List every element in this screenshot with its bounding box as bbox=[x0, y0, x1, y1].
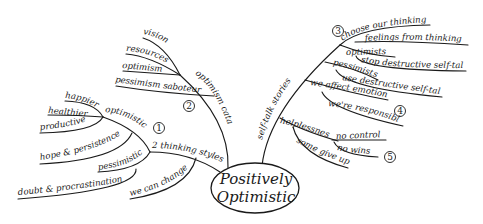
mind-map: vision resources optimism pessimism sabo… bbox=[0, 0, 483, 224]
number-badge-4: 4 bbox=[395, 106, 406, 117]
svg-text:3: 3 bbox=[335, 26, 341, 36]
svg-text:2: 2 bbox=[186, 101, 192, 111]
label-vision: vision bbox=[143, 26, 171, 45]
label-no-control: no control bbox=[336, 129, 381, 141]
svg-text:4: 4 bbox=[397, 106, 403, 116]
number-badge-5: 5 bbox=[385, 152, 396, 163]
number-badge-1: 1 bbox=[154, 123, 165, 134]
central-node: Positively Optimistic bbox=[211, 163, 299, 213]
center-title-line1: Positively bbox=[219, 170, 293, 188]
number-badge-2: 2 bbox=[184, 101, 195, 112]
label-pessimistic: pessimistic bbox=[97, 147, 144, 172]
svg-text:5: 5 bbox=[387, 152, 393, 162]
label-helplessness: helplessness bbox=[0, 0, 332, 139]
label-optimistic: optimistic bbox=[105, 104, 150, 130]
branch-optimism-catalyst bbox=[116, 38, 228, 168]
center-title-line2: Optimistic bbox=[217, 188, 296, 206]
svg-text:1: 1 bbox=[156, 123, 162, 133]
label-self-talk-stories: self-talk stories bbox=[254, 75, 293, 140]
number-badge-3: 3 bbox=[333, 26, 344, 37]
